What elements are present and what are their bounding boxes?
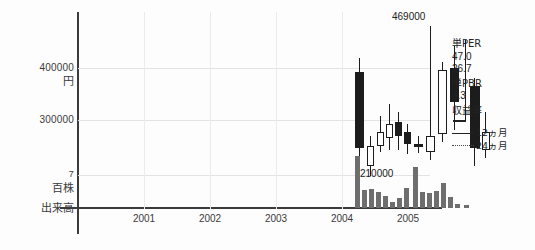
legend-label-24month: 24ヵ月: [476, 140, 508, 153]
candle-wick: [442, 134, 443, 142]
stock-chart-screenshot: 400000 300000 円 7 百株 出来高 2001 2002 2003 …: [0, 0, 535, 250]
candle-body-hollow: [438, 70, 447, 134]
volume-bar: [390, 202, 395, 208]
volume-unit-label: 百株: [52, 179, 74, 195]
price-axis-labels: 400000 300000 円 7 百株 出来高: [0, 0, 74, 250]
volume-bar: [441, 183, 446, 208]
volume-tick-7: 7: [69, 169, 74, 179]
volume-axis-title: 出来高: [41, 199, 74, 215]
volume-bar: [427, 193, 432, 208]
volume-bar: [369, 189, 374, 208]
legend-label-12month: 12ヵ月: [476, 127, 508, 140]
xtick-2005: 2005: [397, 213, 419, 224]
candle-wick: [442, 62, 443, 70]
yield-label: 収益率: [452, 105, 534, 118]
annotation-volume-value: 210000: [360, 168, 393, 179]
volume-bar: [434, 191, 439, 208]
price-unit-yen: 円: [63, 72, 74, 88]
xtick-2001: 2001: [133, 213, 155, 224]
volume-bar: [413, 167, 418, 208]
volume-bar: [455, 204, 460, 208]
xtick-2003: 2003: [265, 213, 287, 224]
legend-entry-24month: 24ヵ月: [452, 140, 534, 153]
yield-dash-marker: [453, 120, 466, 122]
per-label: 単PER: [452, 38, 534, 51]
per-value-secondary: 26.7: [452, 63, 534, 76]
legend-entry-12month: 12ヵ月: [452, 127, 534, 140]
candle-wick-high: [430, 26, 431, 136]
per-value-primary: 47.0: [452, 51, 534, 64]
xtick-2002: 2002: [199, 213, 221, 224]
annotation-high-price: 469000: [392, 11, 425, 22]
volume-bar: [383, 196, 388, 208]
pbr-value: 3.3: [452, 90, 534, 103]
candle-wick: [430, 152, 431, 160]
ytick-300000: 300000: [39, 114, 74, 125]
solid-line-swatch-icon: [452, 133, 474, 134]
volume-bar: [404, 188, 409, 208]
pbr-label: 単PBR: [452, 78, 534, 91]
volume-bar: [464, 205, 469, 208]
volume-bar: [448, 197, 453, 208]
volume-bar: [420, 192, 425, 208]
indicator-legend-panel: 単PER 47.0 26.7 単PBR 3.3 収益率 12ヵ月 24ヵ月: [452, 38, 534, 152]
xtick-2004: 2004: [331, 213, 353, 224]
volume-bar: [355, 156, 360, 208]
volume-bar: [362, 190, 367, 208]
volume-bar: [397, 198, 402, 208]
volume-bar: [376, 192, 381, 208]
dotted-line-swatch-icon: [452, 145, 474, 146]
